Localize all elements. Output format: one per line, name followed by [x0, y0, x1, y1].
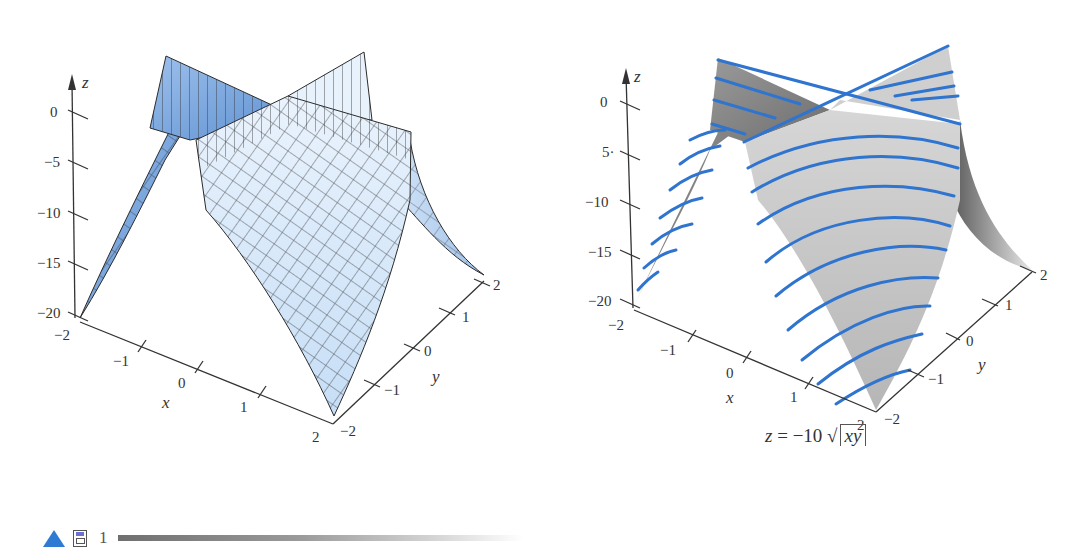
- footer-rule: [118, 535, 524, 541]
- svg-text:0: 0: [424, 343, 432, 359]
- wireframe-surface-plot: z 0 −5 −10 −15 −20: [0, 0, 540, 470]
- svg-text:−15: −15: [588, 244, 611, 260]
- x-axis: −2 −1 0 1 2 x: [54, 322, 333, 445]
- triangle-icon: [43, 530, 65, 547]
- svg-text:x: x: [161, 393, 170, 412]
- svg-text:−1: −1: [928, 371, 944, 387]
- svg-text:−5: −5: [44, 154, 60, 170]
- svg-text:2: 2: [1040, 267, 1048, 283]
- svg-text:1: 1: [462, 309, 470, 325]
- figure-caption: z = −10 √xy: [765, 425, 866, 447]
- svg-text:1: 1: [790, 389, 798, 405]
- svg-text:0: 0: [50, 104, 58, 120]
- contour-surface-plot: z 0 5· −10 −15 −20: [540, 0, 1073, 470]
- surface-mesh: [80, 52, 484, 416]
- svg-text:−1: −1: [384, 382, 400, 398]
- svg-text:−2: −2: [340, 423, 356, 439]
- svg-text:5·: 5·: [602, 144, 615, 160]
- svg-text:y: y: [430, 367, 440, 386]
- svg-text:y: y: [976, 355, 986, 374]
- svg-text:0: 0: [178, 375, 186, 391]
- svg-text:0: 0: [600, 94, 608, 110]
- svg-text:−15: −15: [37, 255, 60, 271]
- svg-text:−10: −10: [585, 194, 608, 210]
- contour-surface-svg: z 0 5· −10 −15 −20: [540, 0, 1073, 470]
- svg-text:−2: −2: [884, 411, 900, 427]
- svg-text:z: z: [81, 73, 89, 92]
- svg-text:2: 2: [312, 429, 320, 445]
- z-axis: z 0 −5 −10 −15 −20: [37, 73, 89, 321]
- svg-text:−2: −2: [608, 317, 624, 333]
- caption-radicand: xy: [840, 424, 867, 446]
- svg-text:0: 0: [726, 365, 734, 381]
- svg-text:−10: −10: [37, 205, 60, 221]
- svg-text:−1: −1: [660, 342, 676, 358]
- caption-radical: √: [827, 425, 837, 446]
- caption-lhs: z: [765, 425, 772, 446]
- floppy-disk-icon: [73, 530, 87, 547]
- svg-text:−20: −20: [37, 305, 60, 321]
- svg-text:−2: −2: [54, 327, 70, 343]
- page-marker: 1: [99, 528, 108, 548]
- caption-equals: =: [777, 425, 788, 446]
- svg-text:x: x: [725, 388, 734, 407]
- svg-text:−20: −20: [588, 293, 611, 309]
- wireframe-surface-svg: z 0 −5 −10 −15 −20: [0, 0, 540, 470]
- svg-text:0: 0: [966, 333, 974, 349]
- svg-text:1: 1: [240, 399, 248, 415]
- z-axis: z 0 5· −10 −15 −20: [585, 67, 641, 309]
- svg-text:2: 2: [493, 277, 501, 293]
- svg-text:−1: −1: [113, 353, 129, 369]
- svg-text:1: 1: [1005, 297, 1013, 313]
- page-footer: 1: [43, 528, 523, 548]
- caption-coefficient: −10: [793, 425, 823, 446]
- svg-text:z: z: [633, 67, 641, 86]
